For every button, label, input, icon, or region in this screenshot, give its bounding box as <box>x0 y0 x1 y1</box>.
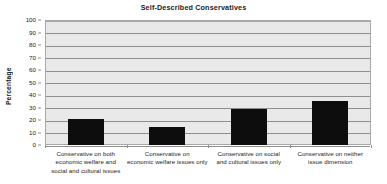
bar-chart-figure: Self-Described Conservatives Percentage … <box>0 0 387 184</box>
gridline <box>46 46 370 47</box>
x-axis-category-labels: Conservative on botheconomic welfare and… <box>45 148 371 182</box>
x-axis-category-label: Conservative on neitherissue dimension <box>290 150 372 167</box>
gridline <box>46 58 370 59</box>
y-axis-tick-label: 90 <box>29 29 36 35</box>
x-axis-tick-mark <box>127 145 128 148</box>
y-axis-tick-label: 100 <box>26 17 36 23</box>
y-axis-tick-mark <box>38 45 41 46</box>
x-axis-tick-mark <box>45 145 46 148</box>
gridline <box>46 133 370 134</box>
y-axis-tick-label: 40 <box>29 92 36 98</box>
gridline <box>46 96 370 97</box>
y-axis-tick-label: 20 <box>29 117 36 123</box>
x-axis-category-label: Conservative oneconomic welfare issues o… <box>127 150 209 167</box>
x-axis-tick-mark <box>208 145 209 148</box>
y-axis-tick-mark <box>38 132 41 133</box>
plot-area <box>45 20 371 145</box>
y-axis-tick-mark <box>38 57 41 58</box>
x-axis-label-line: Conservative on <box>127 150 209 158</box>
y-axis-tick-label: 30 <box>29 104 36 110</box>
x-axis-label-line: Conservative on both <box>45 150 127 158</box>
y-axis-tick-mark <box>38 82 41 83</box>
gridline <box>46 83 370 84</box>
x-axis-label-line: issue dimension <box>290 158 372 166</box>
x-axis-label-line: Conservative on social <box>208 150 290 158</box>
gridline <box>46 108 370 109</box>
y-axis-tick-mark <box>38 32 41 33</box>
y-axis-tick-mark <box>38 107 41 108</box>
x-axis-category-label: Conservative on socialand cultural issue… <box>208 150 290 167</box>
x-axis-label-line: Conservative on neither <box>290 150 372 158</box>
y-axis-tick-mark <box>38 20 41 21</box>
y-axis-tick-label: 10 <box>29 129 36 135</box>
gridline <box>46 21 370 22</box>
y-axis-tick-label: 80 <box>29 42 36 48</box>
chart-title: Self-Described Conservatives <box>0 3 387 12</box>
x-axis-label-line: social and cultural issues <box>45 167 127 175</box>
y-axis-tick-label: 70 <box>29 54 36 60</box>
y-axis-tick-mark <box>38 145 41 146</box>
gridline <box>46 71 370 72</box>
x-axis-tick-mark <box>290 145 291 148</box>
x-axis-tick-mark <box>371 145 372 148</box>
y-axis-tick-mark <box>38 95 41 96</box>
gridline <box>46 121 370 122</box>
y-axis-tick-label: 50 <box>29 79 36 85</box>
x-axis-category-label: Conservative on botheconomic welfare and… <box>45 150 127 175</box>
y-axis-tick-labels: 0102030405060708090100 <box>0 20 41 145</box>
y-axis-tick-label: 0 <box>33 142 36 148</box>
x-axis-label-line: and cultural issues only <box>208 158 290 166</box>
y-axis-tick-mark <box>38 70 41 71</box>
gridline <box>46 33 370 34</box>
y-axis-tick-label: 60 <box>29 67 36 73</box>
x-axis-label-line: economic welfare and <box>45 158 127 166</box>
x-axis-label-line: economic welfare issues only <box>127 158 209 166</box>
gridlines <box>46 21 370 144</box>
y-axis-tick-mark <box>38 120 41 121</box>
